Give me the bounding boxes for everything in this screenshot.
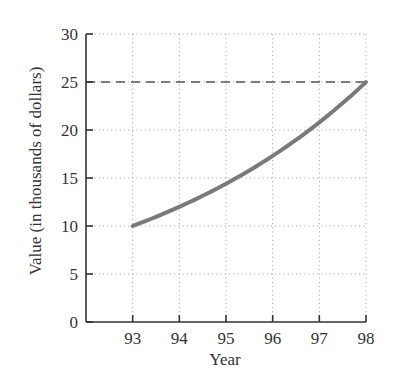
x-tick-label: 98	[358, 329, 375, 348]
y-tick-label: 10	[61, 217, 78, 236]
y-tick-label: 5	[70, 265, 79, 284]
x-tick-label: 95	[218, 329, 235, 348]
y-tick-group: 051015202530	[61, 25, 93, 332]
x-tick-label: 94	[171, 329, 189, 348]
line-chart: 939495969798 051015202530 Year Value (in…	[0, 0, 398, 384]
y-axis-title: Value (in thousands of dollars)	[26, 67, 45, 276]
grid-lines	[86, 34, 366, 322]
y-tick-label: 20	[61, 121, 78, 140]
x-tick-label: 93	[124, 329, 141, 348]
x-tick-group: 939495969798	[124, 315, 374, 348]
y-tick-label: 0	[70, 313, 79, 332]
x-tick-label: 96	[264, 329, 281, 348]
y-tick-label: 25	[61, 73, 78, 92]
data-curve	[133, 82, 366, 226]
x-axis-title: Year	[209, 350, 241, 369]
x-tick-label: 97	[311, 329, 329, 348]
y-tick-label: 30	[61, 25, 78, 44]
data-series-group	[133, 82, 366, 226]
y-tick-label: 15	[61, 169, 78, 188]
